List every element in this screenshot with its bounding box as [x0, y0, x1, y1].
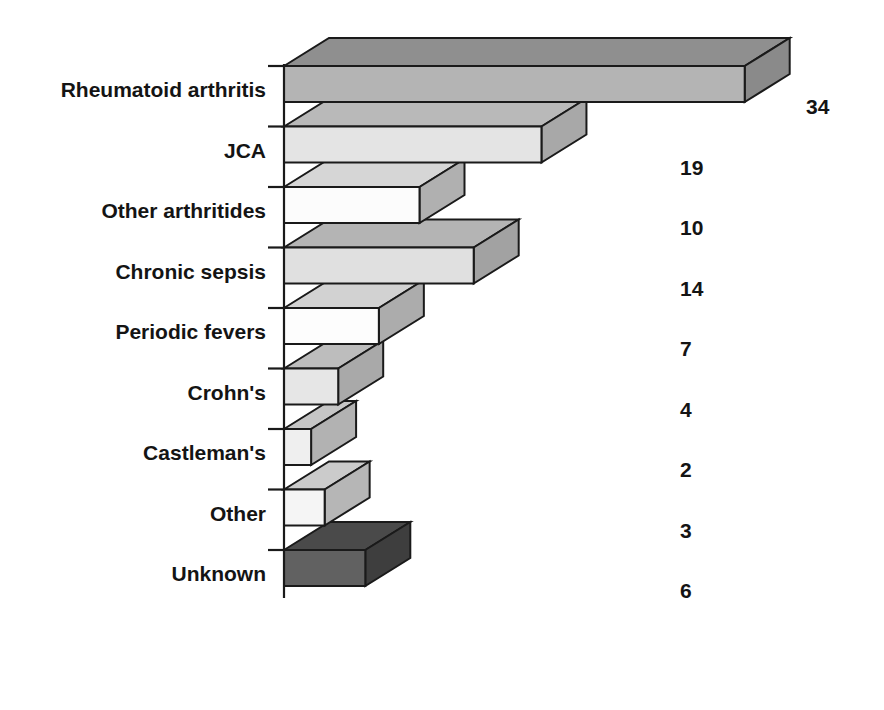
chart-canvas: Rheumatoid arthritisJCAOther arthritides… — [0, 0, 884, 710]
bar-8 — [284, 462, 370, 526]
category-label-2: JCA — [224, 139, 266, 162]
bar-front-face — [284, 490, 325, 526]
value-label-8: 3 — [680, 519, 692, 542]
category-label-8: Other — [210, 502, 266, 525]
bar-front-face — [284, 550, 365, 586]
bars-layer — [284, 38, 790, 586]
value-label-4: 14 — [680, 277, 704, 300]
category-label-7: Castleman's — [143, 441, 266, 464]
bar-top-face — [284, 38, 790, 66]
bar-4 — [284, 220, 519, 284]
bar-chart-figure: Rheumatoid arthritisJCAOther arthritides… — [0, 0, 884, 710]
bar-front-face — [284, 127, 541, 163]
category-label-4: Chronic sepsis — [115, 260, 266, 283]
bar-5 — [284, 280, 424, 344]
bar-1 — [284, 38, 790, 102]
bar-front-face — [284, 66, 745, 102]
bar-front-face — [284, 308, 379, 344]
value-label-6: 4 — [680, 398, 692, 421]
bar-7 — [284, 401, 356, 465]
value-label-7: 2 — [680, 458, 692, 481]
bar-2 — [284, 99, 586, 163]
value-label-1: 34 — [806, 95, 830, 118]
bar-6 — [284, 341, 383, 405]
value-label-2: 19 — [680, 156, 703, 179]
bar-3 — [284, 159, 465, 223]
category-label-9: Unknown — [172, 562, 267, 585]
category-labels: Rheumatoid arthritisJCAOther arthritides… — [61, 78, 266, 585]
bar-front-face — [284, 369, 338, 405]
bar-front-face — [284, 248, 474, 284]
category-label-3: Other arthritides — [101, 199, 266, 222]
value-label-9: 6 — [680, 579, 692, 602]
category-axis — [268, 64, 284, 598]
bar-9 — [284, 522, 410, 586]
category-label-6: Crohn's — [188, 381, 267, 404]
bar-front-face — [284, 429, 311, 465]
value-label-3: 10 — [680, 216, 703, 239]
value-labels: 3419101474236 — [680, 95, 830, 602]
category-label-1: Rheumatoid arthritis — [61, 78, 266, 101]
value-label-5: 7 — [680, 337, 692, 360]
bar-front-face — [284, 187, 420, 223]
category-label-5: Periodic fevers — [115, 320, 266, 343]
